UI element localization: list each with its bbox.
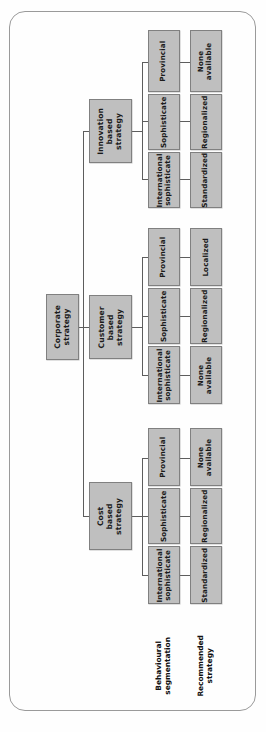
node-behavioural-cost-3[interactable]: International sophisticate (148, 546, 180, 604)
node-label: Customer based strategy (97, 306, 124, 348)
node-label: Regionalized (202, 489, 210, 542)
node-recommended-customer-3[interactable]: None available (190, 346, 222, 404)
row-label-text: Recommended strategy (197, 635, 215, 696)
innovation-rec-line-3 (180, 179, 190, 180)
node-behavioural-customer-1[interactable]: Provincial (148, 228, 180, 286)
innovation-out-line (132, 131, 142, 132)
node-recommended-customer-1[interactable]: Localized (190, 228, 222, 286)
node-behavioural-cost-1[interactable]: Provincial (148, 428, 180, 486)
node-label: Provincial (160, 436, 168, 477)
node-recommended-innovation-1[interactable]: None available (190, 30, 222, 92)
customer-rec-line-3 (180, 375, 190, 376)
node-recommended-cost-3[interactable]: Standardized (190, 546, 222, 604)
row-label-recommended-strategy: Recommended strategy (188, 618, 224, 714)
node-branch-cost[interactable]: Cost based strategy (89, 482, 132, 550)
node-recommended-cost-1[interactable]: None available (190, 428, 222, 486)
row-label-text: Behavioural segmentation (155, 637, 173, 695)
row-label-behavioural-segmentation: Behavioural segmentation (146, 618, 182, 714)
node-label: Standardized (202, 547, 210, 602)
node-label: International sophisticate (156, 348, 173, 402)
node-label: Localized (202, 238, 210, 277)
node-label: Cost based strategy (97, 495, 124, 536)
node-label: Sophisticate (160, 96, 168, 148)
node-label: Sophisticate (160, 490, 168, 542)
node-behavioural-innovation-2[interactable]: Sophisticate (148, 94, 180, 150)
node-recommended-customer-2[interactable]: Regionalized (190, 288, 222, 344)
trunk-vertical-line (83, 131, 84, 517)
node-label: Regionalized (202, 95, 210, 148)
node-label: International sophisticate (156, 153, 173, 207)
node-label: None available (198, 356, 215, 394)
node-label: Provincial (160, 40, 168, 81)
diagram-canvas: Corporate strategy Innovation based stra… (0, 0, 266, 732)
node-branch-innovation[interactable]: Innovation based strategy (89, 99, 132, 163)
cost-out-line (132, 516, 142, 517)
node-behavioural-innovation-3[interactable]: International sophisticate (148, 152, 180, 208)
node-behavioural-cost-2[interactable]: Sophisticate (148, 488, 180, 544)
cost-rec-line-1 (180, 458, 190, 459)
customer-out-line (132, 327, 142, 328)
node-label: Corporate strategy (54, 305, 72, 349)
node-recommended-innovation-2[interactable]: Regionalized (190, 94, 222, 150)
node-label: Innovation based strategy (97, 108, 124, 155)
node-label: Provincial (160, 236, 168, 277)
innovation-rec-line-1 (180, 62, 190, 63)
node-label: International sophisticate (156, 548, 173, 602)
cost-rec-line-3 (180, 575, 190, 576)
node-label: None available (198, 438, 215, 476)
node-label: None available (198, 42, 215, 80)
node-label: Standardized (202, 152, 210, 207)
node-behavioural-innovation-1[interactable]: Provincial (148, 30, 180, 92)
customer-rec-line-1 (180, 257, 190, 258)
node-label: Regionalized (202, 289, 210, 342)
cost-rec-line-2 (180, 516, 190, 517)
customer-rec-line-2 (180, 316, 190, 317)
node-behavioural-customer-2[interactable]: Sophisticate (148, 288, 180, 344)
node-behavioural-customer-3[interactable]: International sophisticate (148, 346, 180, 404)
node-label: Sophisticate (160, 290, 168, 342)
node-recommended-cost-2[interactable]: Regionalized (190, 488, 222, 544)
cost-fan-line (142, 458, 143, 576)
node-corporate-strategy[interactable]: Corporate strategy (46, 294, 79, 360)
innovation-rec-line-2 (180, 121, 190, 122)
node-branch-customer[interactable]: Customer based strategy (89, 295, 132, 359)
node-recommended-innovation-3[interactable]: Standardized (190, 152, 222, 208)
